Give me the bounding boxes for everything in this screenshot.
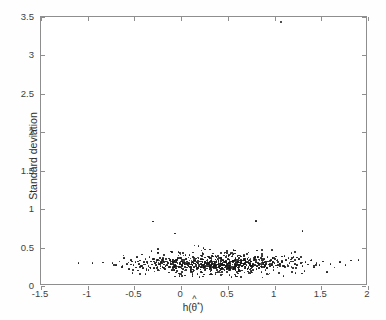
scatter-point [234, 253, 236, 255]
scatter-point [164, 268, 166, 270]
scatter-point [141, 254, 143, 256]
scatter-point [311, 259, 313, 261]
scatter-point [226, 271, 228, 273]
scatter-point [288, 257, 290, 259]
scatter-point [204, 257, 206, 259]
scatter-point [358, 259, 360, 261]
scatter-point [172, 259, 174, 261]
scatter-point [152, 221, 154, 223]
scatter-point [192, 256, 194, 258]
scatter-point [222, 260, 224, 262]
scatter-point [273, 266, 275, 268]
scatter-point [182, 252, 184, 254]
scatter-point [198, 257, 200, 259]
scatter-point [163, 261, 165, 263]
scatter-point [179, 257, 181, 259]
scatter-point [157, 266, 159, 268]
scatter-point [244, 272, 246, 274]
scatter-point [133, 264, 135, 266]
x-axis-tick-top [368, 17, 369, 21]
scatter-point [151, 264, 153, 266]
scatter-point [302, 230, 304, 232]
y-axis-tick [41, 94, 45, 95]
scatter-point [157, 259, 159, 261]
scatter-point [201, 261, 203, 263]
scatter-point [261, 255, 263, 257]
scatter-point [257, 256, 259, 258]
scatter-point [262, 277, 264, 279]
scatter-point [135, 261, 137, 263]
y-axis-tick-label: 0.5 [21, 241, 34, 252]
scatter-point [132, 272, 134, 274]
scatter-point [78, 262, 80, 264]
scatter-point [240, 256, 242, 258]
x-axis-title: h(^θ*) [0, 300, 386, 313]
scatter-point [226, 252, 228, 254]
scatter-point [295, 267, 297, 269]
scatter-point [256, 250, 258, 252]
scatter-point [135, 267, 137, 269]
scatter-point [292, 267, 294, 269]
scatter-point [246, 253, 248, 255]
scatter-point [206, 263, 208, 265]
y-axis-tick-right [362, 171, 366, 172]
scatter-point [210, 264, 212, 266]
scatter-point [181, 275, 183, 277]
scatter-point [145, 273, 147, 275]
x-axis-tick-label: -0.5 [125, 288, 141, 299]
scatter-point [201, 250, 203, 252]
scatter-point [139, 260, 141, 262]
scatter-point [189, 254, 191, 256]
scatter-point [235, 250, 237, 252]
scatter-point [123, 255, 125, 257]
scatter-point [174, 233, 176, 235]
scatter-point [248, 272, 250, 274]
scatter-point [148, 269, 150, 271]
scatter-point [200, 271, 202, 273]
scatter-point [302, 262, 304, 264]
scatter-point [339, 261, 341, 263]
scatter-point [290, 261, 292, 263]
scatter-point [211, 255, 213, 257]
scatter-point [189, 264, 191, 266]
scatter-point [241, 270, 243, 272]
y-axis-tick-right [362, 248, 366, 249]
scatter-point [300, 256, 302, 258]
scatter-point [159, 257, 161, 259]
scatter-point [137, 261, 139, 263]
scatter-point [215, 273, 217, 275]
scatter-point [238, 270, 240, 272]
scatter-point [293, 256, 295, 258]
scatter-point [240, 276, 242, 278]
scatter-point [129, 269, 131, 271]
scatter-point [175, 268, 177, 270]
scatter-point [295, 272, 297, 274]
scatter-point [239, 264, 241, 266]
scatter-point [220, 264, 222, 266]
scatter-point [252, 272, 254, 274]
scatter-point [143, 261, 145, 263]
scatter-point [224, 262, 226, 264]
x-axis-tick-top [321, 17, 322, 21]
scatter-point [131, 261, 133, 263]
scatter-point [322, 261, 324, 263]
x-axis-tick-top [228, 17, 229, 21]
scatter-point [183, 259, 185, 261]
scatter-point [291, 271, 293, 273]
scatter-point [265, 269, 267, 271]
scatter-point [190, 269, 192, 271]
scatter-point [229, 269, 231, 271]
scatter-point [313, 266, 315, 268]
y-axis-tick-right [362, 209, 366, 210]
scatter-point [302, 265, 304, 267]
scatter-point [284, 266, 286, 268]
y-axis-tick [41, 17, 45, 18]
scatter-point [185, 269, 187, 271]
scatter-point [232, 268, 234, 270]
scatter-point [294, 259, 296, 261]
scatter-point [181, 267, 183, 269]
scatter-point [203, 274, 205, 276]
scatter-point [197, 273, 199, 275]
scatter-point [151, 250, 153, 252]
y-axis-tick-right [362, 132, 366, 133]
